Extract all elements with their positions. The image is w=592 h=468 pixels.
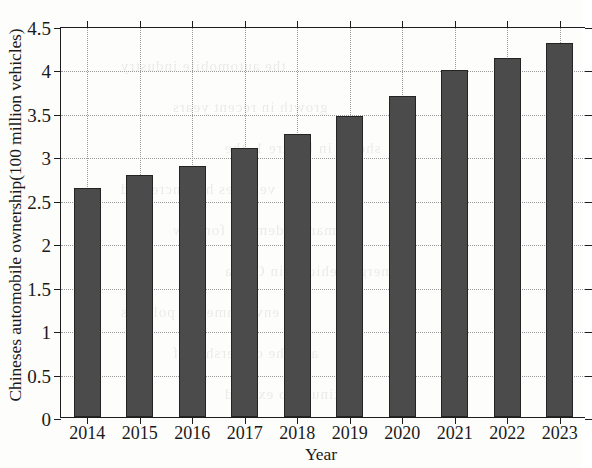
- bar: [74, 188, 101, 417]
- y-axis-tick: [54, 376, 61, 377]
- x-axis-tick-top: [192, 21, 193, 28]
- x-axis-tick-label: 2022: [489, 424, 525, 442]
- bar: [179, 166, 206, 417]
- y-axis-tick-right: [585, 158, 592, 159]
- y-axis-tick-label: 4.5: [27, 19, 51, 38]
- y-axis-tick-right: [585, 202, 592, 203]
- bar: [546, 43, 573, 417]
- x-axis-tick-top: [350, 21, 351, 28]
- y-axis-tick: [54, 202, 61, 203]
- y-axis-tick: [54, 419, 61, 420]
- x-axis-tick-top: [402, 21, 403, 28]
- y-axis-tick-label: 1.5: [27, 279, 51, 298]
- bar: [494, 58, 521, 417]
- y-axis-tick-right: [585, 245, 592, 246]
- y-axis-tick-label: 3: [42, 149, 52, 168]
- plot-area: 00.511.522.533.544.5 2014201520162017201…: [60, 27, 585, 418]
- y-axis-tick-right: [585, 332, 592, 333]
- x-axis-tick-label: 2017: [227, 424, 263, 442]
- x-axis-tick-label: 2019: [332, 424, 368, 442]
- bar: [284, 134, 311, 417]
- x-axis-tick-label: 2021: [437, 424, 473, 442]
- y-axis-tick: [54, 71, 61, 72]
- y-axis-tick: [54, 158, 61, 159]
- bar: [441, 70, 468, 417]
- bar: [389, 96, 416, 417]
- y-axis-tick-label: 0: [42, 410, 52, 429]
- y-axis-tick-label: 1: [42, 323, 52, 342]
- x-axis-tick-top: [87, 21, 88, 28]
- y-axis-tick: [54, 289, 61, 290]
- y-axis-tick-right: [585, 419, 592, 420]
- bar: [336, 116, 363, 417]
- x-axis-title: Year: [60, 444, 582, 464]
- y-axis-tick: [54, 28, 61, 29]
- y-axis-tick-right: [585, 115, 592, 116]
- x-axis-tick-label: 2016: [174, 424, 210, 442]
- y-axis-tick-right: [585, 71, 592, 72]
- x-axis-tick-label: 2015: [122, 424, 158, 442]
- x-axis-tick-top: [140, 21, 141, 28]
- y-axis-tick-label: 0.5: [27, 366, 51, 385]
- y-axis-tick-right: [585, 28, 592, 29]
- x-axis-tick-label: 2023: [542, 424, 578, 442]
- x-axis-tick-top: [560, 21, 561, 28]
- bar: [126, 175, 153, 417]
- x-axis-tick-label: 2018: [279, 424, 315, 442]
- bar: [231, 148, 258, 417]
- x-axis-tick-top: [245, 21, 246, 28]
- y-axis-tick-label: 4: [42, 62, 52, 81]
- x-axis-tick-top: [455, 21, 456, 28]
- y-axis-tick-label: 2: [42, 236, 52, 255]
- y-axis-tick: [54, 332, 61, 333]
- x-axis-tick-top: [297, 21, 298, 28]
- y-axis-tick-label: 2.5: [27, 192, 51, 211]
- y-axis-tick-right: [585, 376, 592, 377]
- x-axis-tick-label: 2014: [69, 424, 105, 442]
- y-axis-tick: [54, 115, 61, 116]
- y-axis-tick-right: [585, 289, 592, 290]
- y-axis-tick: [54, 245, 61, 246]
- y-axis-tick-label: 3.5: [27, 105, 51, 124]
- y-axis-title: Chineses automobile ownership(100 millio…: [2, 0, 28, 430]
- x-axis-tick-label: 2020: [384, 424, 420, 442]
- x-axis-tick-top: [507, 21, 508, 28]
